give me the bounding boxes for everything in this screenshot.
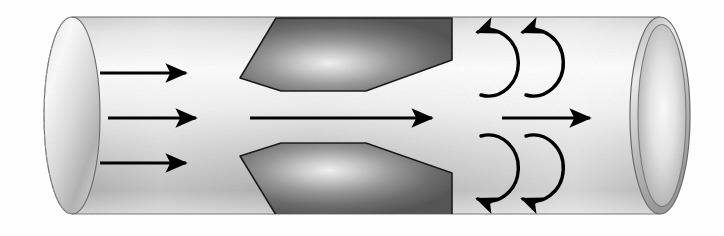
- pipe-flow-diagram: [0, 0, 724, 236]
- right-open-end: [630, 17, 690, 214]
- figure-root: [0, 0, 724, 236]
- right-mouth-bore: [638, 25, 686, 207]
